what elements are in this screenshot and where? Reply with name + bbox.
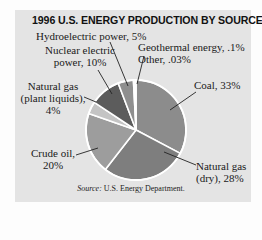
label-natgas-dry: Natural gas (dry), 28% [196, 160, 246, 184]
label-ngpl-line2: (plant liquids), [18, 92, 88, 104]
label-crude-line2: 20% [28, 159, 78, 171]
label-ngpl-line1: Natural gas [18, 80, 88, 92]
label-nuclear-line2: power, 10% [44, 56, 116, 68]
label-ngpl: Natural gas (plant liquids), 4% [18, 80, 88, 116]
source-text: U.S. Energy Department. [104, 184, 185, 193]
label-crude: Crude oil, 20% [28, 147, 78, 171]
label-other: Other, .03% [138, 53, 191, 65]
label-geothermal: Geothermal energy, .1% [138, 41, 245, 53]
label-crude-line1: Crude oil, [28, 147, 78, 159]
label-nuclear-line1: Nuclear electric [44, 44, 116, 56]
source-note: Source: U.S. Energy Department. [0, 184, 262, 193]
label-hydro: Hydroelectric power, 5% [36, 30, 146, 42]
label-ngpl-line3: 4% [18, 104, 88, 116]
label-nuclear: Nuclear electric power, 10% [44, 44, 116, 68]
label-natgas-dry-line2: (dry), 28% [196, 172, 246, 184]
source-label: Source: [77, 184, 102, 193]
label-coal: Coal, 33% [194, 79, 240, 91]
label-natgas-dry-line1: Natural gas [196, 160, 246, 172]
